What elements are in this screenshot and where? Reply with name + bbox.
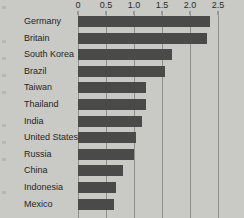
bar bbox=[78, 199, 114, 210]
bar bbox=[78, 116, 142, 127]
bar bbox=[78, 66, 165, 77]
category-label: United States bbox=[24, 132, 78, 143]
chart-row: Indonesia bbox=[0, 181, 244, 198]
chart-row: Germany bbox=[0, 15, 244, 32]
bar bbox=[78, 149, 134, 160]
bar bbox=[78, 165, 123, 176]
bar bbox=[78, 132, 136, 143]
chart-row: Russia bbox=[0, 148, 244, 165]
x-axis-tick-label: 1.0 bbox=[128, 0, 141, 11]
chart-row: South Korea bbox=[0, 48, 244, 65]
category-label: Indonesia bbox=[24, 182, 63, 193]
chart-row: Brazil bbox=[0, 65, 244, 82]
bar bbox=[78, 182, 116, 193]
chart-row: China bbox=[0, 164, 244, 181]
category-label: India bbox=[24, 116, 44, 127]
bar bbox=[78, 33, 207, 44]
category-label: Taiwan bbox=[24, 82, 52, 93]
x-axis-tick-label: 1.5 bbox=[156, 0, 169, 11]
bar bbox=[78, 16, 210, 27]
category-label: Britain bbox=[24, 33, 50, 44]
chart-row: United States bbox=[0, 131, 244, 148]
x-axis-tick-label: 0.5 bbox=[100, 0, 113, 11]
category-label: South Korea bbox=[24, 49, 74, 60]
chart-row: Thailand bbox=[0, 98, 244, 115]
x-axis-tick-label: 0 bbox=[75, 0, 80, 11]
bar bbox=[78, 49, 172, 60]
chart-row: Mexico bbox=[0, 198, 244, 215]
category-label: Russia bbox=[24, 149, 52, 160]
category-label: China bbox=[24, 165, 48, 176]
plot-area: GermanyBritainSouth KoreaBrazilTaiwanTha… bbox=[0, 15, 244, 218]
category-label: Mexico bbox=[24, 199, 53, 210]
chart-row: India bbox=[0, 115, 244, 132]
bar-chart: 00.51.01.52.02.5 GermanyBritainSouth Kor… bbox=[0, 0, 244, 218]
category-label: Thailand bbox=[24, 99, 59, 110]
chart-row: Taiwan bbox=[0, 81, 244, 98]
x-axis-tick-label: 2.5 bbox=[212, 0, 225, 11]
x-axis-tick-label: 2.0 bbox=[184, 0, 197, 11]
category-label: Brazil bbox=[24, 66, 47, 77]
category-label: Germany bbox=[24, 16, 61, 27]
x-axis: 00.51.01.52.02.5 bbox=[0, 0, 244, 14]
bar bbox=[78, 99, 146, 110]
chart-row: Britain bbox=[0, 32, 244, 49]
bar bbox=[78, 82, 146, 93]
